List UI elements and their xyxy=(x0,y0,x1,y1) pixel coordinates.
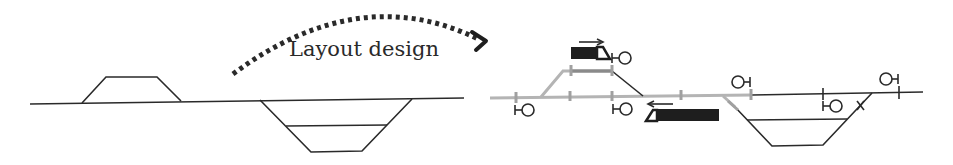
signal-1 xyxy=(515,104,534,116)
transition-arrow: Layout design xyxy=(233,17,486,74)
upper-siding xyxy=(82,77,181,103)
dark-main-track xyxy=(752,92,923,95)
lower-yard-inner xyxy=(286,125,387,126)
signal-3 xyxy=(613,103,632,115)
diagram-canvas: Layout design xyxy=(0,0,953,165)
grey-upper-branch xyxy=(541,71,571,97)
train-upper xyxy=(571,39,610,59)
signal-6 xyxy=(880,73,898,85)
right-layout xyxy=(490,39,923,146)
grey-main-track xyxy=(490,95,752,98)
left-schematic xyxy=(30,77,464,152)
signal-2 xyxy=(612,52,631,64)
arrowhead-icon xyxy=(472,32,486,50)
main-line xyxy=(30,98,464,104)
signal-4 xyxy=(732,76,750,88)
signal-5 xyxy=(823,100,842,112)
upper-siding-exit xyxy=(612,71,643,96)
transition-label: Layout design xyxy=(289,37,439,61)
train-lower xyxy=(646,101,719,121)
lower-yard-inner xyxy=(747,119,847,120)
